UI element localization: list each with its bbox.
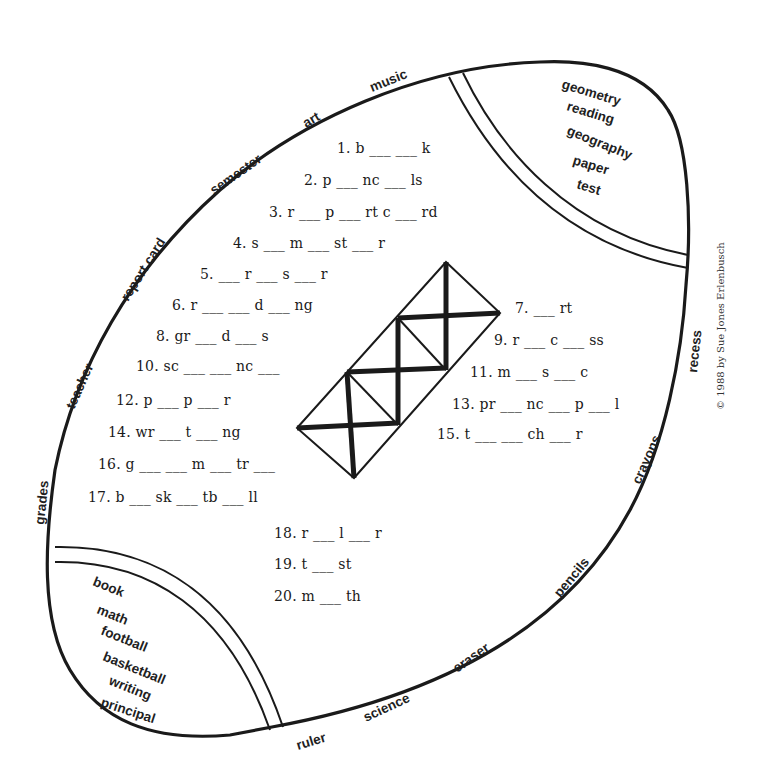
clue-17: 17. b ___ sk ___ tb ___ ll bbox=[88, 489, 258, 505]
bank-word: test bbox=[575, 177, 603, 199]
seam-word-report-card: report card bbox=[118, 235, 168, 303]
clue-5: 5. ___ r ___ s ___ r bbox=[200, 266, 328, 282]
seam-word-ruler: ruler bbox=[294, 730, 328, 753]
clue-19: 19. t ___ st bbox=[274, 556, 351, 572]
clue-14: 14. wr ___ t ___ ng bbox=[108, 424, 241, 440]
clue-18: 18. r ___ l ___ r bbox=[274, 525, 382, 541]
copyright-text: © 1988 by Sue Jones Erlenbusch bbox=[715, 242, 726, 410]
clue-15: 15. t ___ ___ ch ___ r bbox=[437, 426, 583, 442]
seam-word-pencils: pencils bbox=[551, 555, 592, 600]
clue-7: 7. ___ rt bbox=[515, 300, 572, 316]
clue-8: 8. gr ___ d ___ s bbox=[156, 328, 269, 344]
football-drawing: music art semester report card teacher g… bbox=[0, 0, 757, 779]
clue-2: 2. p ___ nc ___ ls bbox=[304, 172, 423, 188]
clue-20: 20. m ___ th bbox=[274, 588, 361, 604]
clue-10: 10. sc ___ ___ nc ___ bbox=[136, 358, 280, 374]
bank-word: paper bbox=[571, 153, 611, 178]
clue-1: 1. b ___ ___ k bbox=[337, 140, 430, 156]
clue-12: 12. p ___ p ___ r bbox=[116, 392, 231, 408]
seam-word-art: art bbox=[300, 109, 323, 131]
clue-3: 3. r ___ p ___ rt c ___ rd bbox=[269, 204, 438, 220]
seam-word-teacher: teacher bbox=[63, 361, 97, 412]
seam-word-recess: recess bbox=[685, 329, 704, 373]
bottom-band-outer bbox=[55, 547, 283, 727]
clue-4: 4. s ___ m ___ st ___ r bbox=[233, 235, 385, 251]
worksheet-page: music art semester report card teacher g… bbox=[0, 0, 757, 779]
bank-word: math bbox=[95, 602, 131, 628]
seam-word-eraser: eraser bbox=[450, 639, 492, 675]
clue-9: 9. r ___ c ___ ss bbox=[494, 332, 604, 348]
seam-word-semester: semester bbox=[207, 151, 265, 198]
clue-13: 13. pr ___ nc ___ p ___ l bbox=[452, 396, 619, 412]
clue-16: 16. g ___ ___ m ___ tr ___ bbox=[98, 456, 275, 472]
bottom-band-inner bbox=[55, 562, 270, 730]
clue-6: 6. r ___ ___ d ___ ng bbox=[172, 297, 313, 313]
top-right-word-bank: geometry reading geography paper test bbox=[560, 77, 635, 199]
seam-word-science: science bbox=[361, 690, 413, 725]
clue-11: 11. m ___ s ___ c bbox=[470, 364, 588, 380]
bottom-left-word-bank: book math football basketball writing pr… bbox=[91, 574, 168, 726]
bank-word: book bbox=[91, 574, 127, 600]
